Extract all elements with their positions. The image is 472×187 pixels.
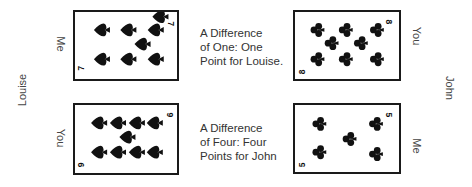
svg-text:8: 8 bbox=[297, 69, 307, 74]
owner-label-round2-right: Me bbox=[411, 131, 423, 161]
svg-text:5: 5 bbox=[384, 113, 394, 118]
svg-text:7: 7 bbox=[76, 66, 86, 71]
card-nine-of-spades: 9 9 bbox=[73, 103, 179, 175]
svg-text:8: 8 bbox=[384, 20, 394, 25]
caption-line: Point for Louise. bbox=[200, 54, 283, 68]
spades-pips-icon: 9 9 bbox=[75, 105, 177, 173]
player-label-louise: Louise bbox=[16, 70, 28, 110]
card-seven-of-spades: 7 7 bbox=[73, 10, 179, 81]
caption-line: A Difference bbox=[200, 121, 277, 135]
card-eight-of-clubs: 8 8 bbox=[293, 10, 401, 81]
round1-caption: A Difference of One: One Point for Louis… bbox=[200, 26, 283, 68]
owner-label-round1-right: You bbox=[411, 21, 423, 51]
owner-label-round1-left: Me bbox=[55, 29, 67, 59]
caption-line: of Four: Four bbox=[200, 135, 277, 149]
card-five-of-clubs: 5 5 bbox=[293, 103, 401, 174]
round2-caption: A Difference of Four: Four Points for Jo… bbox=[200, 121, 277, 163]
player-label-john: John bbox=[444, 68, 456, 108]
clubs-pips-icon: 5 5 bbox=[295, 105, 399, 172]
svg-text:9: 9 bbox=[76, 162, 86, 167]
svg-text:7: 7 bbox=[166, 21, 176, 26]
owner-label-round2-left: You bbox=[55, 123, 67, 153]
svg-text:9: 9 bbox=[165, 113, 175, 118]
svg-text:5: 5 bbox=[297, 162, 307, 167]
caption-line: Points for John bbox=[200, 149, 277, 163]
clubs-pips-icon: 8 8 bbox=[295, 12, 399, 79]
caption-line: A Difference bbox=[200, 26, 283, 40]
spades-pips-icon: 7 7 bbox=[75, 12, 177, 79]
caption-line: of One: One bbox=[200, 40, 283, 54]
